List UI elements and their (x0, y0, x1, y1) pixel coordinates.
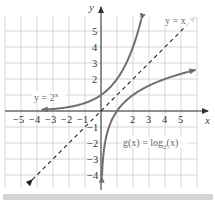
svg-text:3: 3 (92, 58, 97, 69)
y-tick-labels: 5432−1−2−3−4 (87, 26, 99, 181)
svg-text:−2: −2 (61, 114, 72, 125)
svg-text:5: 5 (178, 114, 183, 125)
svg-text:3: 3 (146, 114, 151, 125)
svg-text:−2: −2 (87, 138, 98, 149)
graph-figure: x y −5−4−3−2−12345 5432−1−2−3−4 y = 2x y… (0, 0, 215, 200)
svg-text:2: 2 (92, 74, 97, 85)
y-axis-label: y (88, 1, 94, 13)
identity-line-label: y = x (165, 15, 186, 26)
svg-text:−3: −3 (87, 154, 98, 165)
svg-text:−3: −3 (45, 114, 56, 125)
log-curve-label: g(x) = log2(x) (123, 137, 178, 151)
svg-text:5: 5 (92, 26, 97, 37)
svg-text:−5: −5 (13, 114, 24, 125)
svg-text:4: 4 (92, 42, 98, 53)
bottom-band (3, 194, 213, 200)
svg-text:−4: −4 (87, 170, 99, 181)
svg-text:2: 2 (130, 114, 135, 125)
x-axis-label: x (204, 114, 210, 126)
svg-text:−4: −4 (29, 114, 41, 125)
svg-text:−1: −1 (87, 122, 98, 133)
svg-text:4: 4 (162, 114, 168, 125)
